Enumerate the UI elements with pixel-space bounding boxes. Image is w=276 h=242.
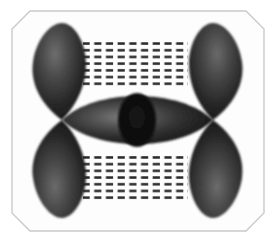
central-node-ellipse <box>118 93 156 147</box>
orbital-figure <box>0 0 276 242</box>
figure-canvas <box>0 0 276 242</box>
hatch-lower <box>83 155 188 202</box>
hatch-upper <box>83 39 188 86</box>
